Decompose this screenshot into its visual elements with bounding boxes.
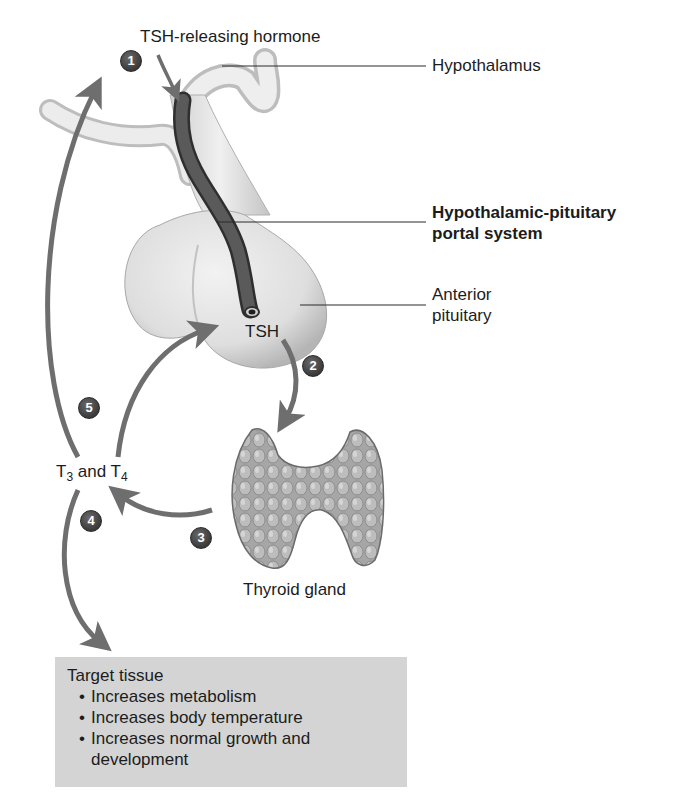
step-badge-1: 1 (120, 50, 142, 72)
step-badge-3: 3 (190, 527, 212, 549)
target-tissue-box: Target tissue Increases metabolism Incre… (55, 657, 407, 787)
portal-system-label-line2: portal system (432, 224, 543, 244)
step-badge-2: 2 (302, 355, 324, 377)
target-tissue-effects: Increases metabolism Increases body temp… (67, 686, 395, 770)
trh-label: TSH-releasing hormone (140, 27, 320, 47)
thyroid-gland-shape (232, 429, 383, 569)
anterior-pituitary-label-line2: pituitary (432, 306, 492, 326)
hypothalamus-shape (50, 60, 270, 215)
thyroid-gland-label: Thyroid gland (243, 580, 346, 600)
effect-item: Increases normal growth and development (79, 728, 391, 770)
tsh-label: TSH (245, 322, 279, 342)
effect-item: Increases body temperature (79, 707, 395, 728)
step-badge-4: 4 (80, 510, 102, 532)
target-tissue-title: Target tissue (67, 665, 395, 686)
hypothalamus-label: Hypothalamus (432, 56, 541, 76)
effect-item: Increases metabolism (79, 686, 395, 707)
arrow-trh (158, 55, 175, 92)
arrow-thyroid-hormones (120, 495, 212, 515)
portal-system-label-line1: Hypothalamic-pituitary (432, 203, 616, 223)
t3-t4-label: T3 and T4 (56, 462, 128, 482)
anterior-pituitary-label-line1: Anterior (432, 285, 492, 305)
arrow-feedback-pituitary (118, 330, 205, 457)
step-badge-5: 5 (78, 397, 100, 419)
